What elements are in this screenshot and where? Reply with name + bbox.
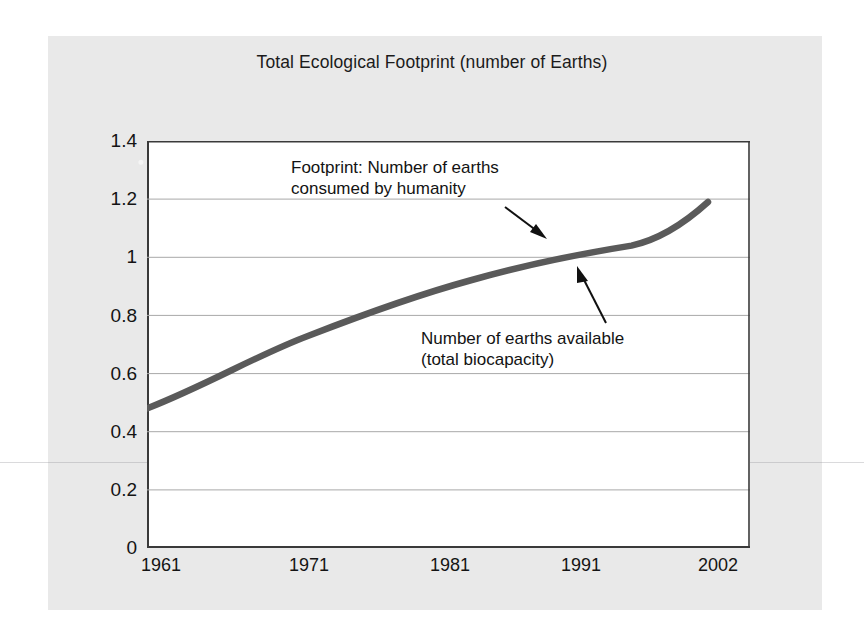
y-tick-label-1.4: 1.4 xyxy=(77,130,137,152)
annotation-footprint-label: Footprint: Number of earths consumed by … xyxy=(291,157,499,199)
y-tick-label-0.4: 0.4 xyxy=(77,421,137,443)
chart-title: Total Ecological Footprint (number of Ea… xyxy=(0,52,864,73)
annotation-biocapacity-label: Number of earths available (total biocap… xyxy=(421,328,624,370)
series-footprint-line xyxy=(147,202,708,408)
y-tick-label-0.6: 0.6 xyxy=(77,363,137,385)
y-tick-label-0.8: 0.8 xyxy=(77,305,137,327)
x-tick-label-1971: 1971 xyxy=(264,555,354,576)
figure-root: Total Ecological Footprint (number of Ea… xyxy=(0,0,864,643)
annotation-arrow-footprint xyxy=(505,207,547,239)
x-tick-label-1991: 1991 xyxy=(536,555,626,576)
y-tick-label-0.2: 0.2 xyxy=(77,479,137,501)
x-tick-label-1961: 1961 xyxy=(116,555,206,576)
x-tick-label-1981: 1981 xyxy=(405,555,495,576)
y-tick-label-1: 1 xyxy=(77,246,137,268)
x-tick-label-2002: 2002 xyxy=(673,555,763,576)
annotation-arrow-biocapacity xyxy=(577,266,606,323)
y-tick-label-1.2: 1.2 xyxy=(77,188,137,210)
